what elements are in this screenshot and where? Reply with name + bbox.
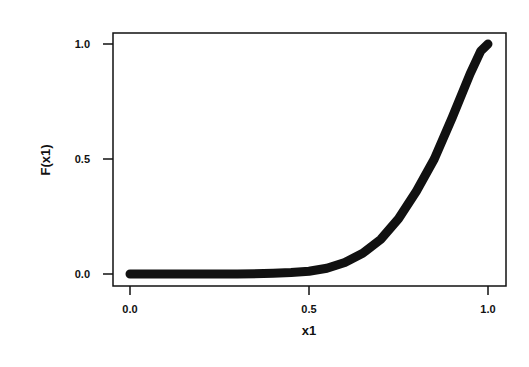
x-axis: 0.00.51.0 <box>122 286 495 315</box>
y-axis: 0.00.51.0 <box>75 38 113 280</box>
plot-frame <box>113 33 506 286</box>
y-axis-label: F(x1) <box>38 144 53 175</box>
x-tick-label: 0.0 <box>122 303 137 315</box>
x-tick-label: 0.5 <box>301 303 316 315</box>
y-tick-label: 0.0 <box>75 268 90 280</box>
y-tick-label: 0.5 <box>75 153 90 165</box>
x-tick-label: 1.0 <box>480 303 495 315</box>
y-tick-label: 1.0 <box>75 38 90 50</box>
chart: 0.00.51.0 0.00.51.0 x1 F(x1) <box>0 0 529 367</box>
cdf-curve <box>130 44 488 274</box>
x-axis-label: x1 <box>302 323 316 338</box>
